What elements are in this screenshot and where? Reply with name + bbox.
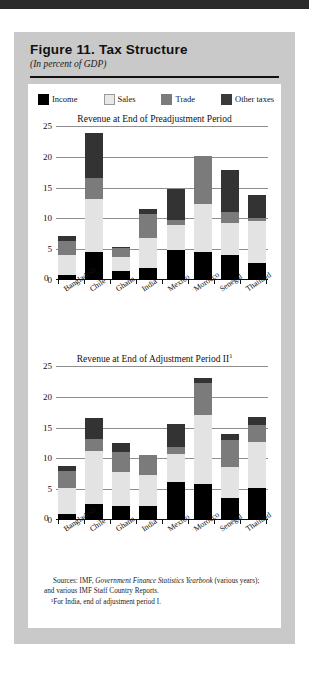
bar-chile[interactable] (85, 418, 103, 520)
bar-segment-sales (58, 488, 76, 514)
y-axis-label-5: 5 (48, 244, 53, 254)
bar-senegal[interactable] (221, 434, 239, 520)
bar-segment-sales (248, 221, 266, 263)
y-axis-label-10: 10 (43, 213, 52, 223)
y-axis-label-10: 10 (43, 453, 52, 463)
bar-segment-sales (194, 415, 212, 483)
chart-adjustment-period-2: Revenue at End of Adjustment Period II1 … (28, 352, 281, 567)
legend-label-trade: Trade (175, 94, 195, 104)
bar-segment-sales (167, 454, 185, 482)
bar-segment-other-taxes (167, 189, 185, 220)
bar-segment-other-taxes (221, 170, 239, 212)
bar-segment-trade (85, 439, 103, 451)
chart-legend: Income Sales Trade Other taxes (38, 91, 274, 107)
bar-segment-trade (194, 156, 212, 204)
bar-segment-trade (167, 447, 185, 454)
figure-page: Figure 11. Tax Structure (In percent of … (0, 0, 309, 679)
bar-group (56, 366, 268, 520)
bar-india[interactable] (139, 455, 157, 520)
bar-segment-trade (248, 425, 266, 442)
bar-segment-other-taxes (85, 418, 103, 440)
chart-card: Income Sales Trade Other taxes Re (28, 84, 281, 628)
bar-bangladesh[interactable] (58, 466, 76, 520)
plot-area-preadjustment: 0510152025 (56, 126, 268, 280)
bar-segment-other-taxes (85, 133, 103, 177)
y-axis-label-15: 15 (43, 423, 52, 433)
source-footnote: ¹For India, end of adjustment period I. (44, 597, 270, 607)
bar-segment-trade (58, 241, 76, 255)
bar-segment-trade (112, 248, 130, 257)
figure-title: Figure 11. Tax Structure (30, 42, 188, 57)
figure-panel: Figure 11. Tax Structure (In percent of … (14, 32, 295, 644)
bar-segment-trade (85, 178, 103, 199)
bar-segment-sales (58, 255, 76, 275)
bar-segment-trade (221, 440, 239, 467)
bar-segment-sales (221, 223, 239, 256)
source-note: Sources: IMF, Government Finance Statist… (44, 576, 270, 607)
bar-segment-sales (194, 204, 212, 251)
legend-label-other-taxes: Other taxes (235, 94, 274, 104)
legend-swatch-other-icon (221, 94, 232, 105)
bar-segment-sales (139, 475, 157, 506)
figure-subtitle: (In percent of GDP) (30, 59, 106, 69)
bar-segment-trade (58, 471, 76, 488)
chart-preadjustment: Revenue at End of Preadjustment Period 0… (28, 112, 281, 327)
bar-chile[interactable] (85, 133, 103, 280)
y-axis-label-5: 5 (48, 484, 53, 494)
legend-label-sales: Sales (118, 94, 136, 104)
bar-morocco[interactable] (194, 378, 212, 520)
legend-item-other: Other taxes (221, 94, 274, 105)
legend-swatch-trade-icon (161, 94, 172, 105)
y-axis-label-25: 25 (43, 361, 52, 371)
bar-india[interactable] (139, 209, 157, 280)
page-top-band (0, 0, 309, 9)
y-axis-label-0: 0 (44, 513, 49, 523)
legend-label-income: Income (52, 94, 78, 104)
bar-thailand[interactable] (248, 195, 266, 280)
bar-segment-sales (85, 451, 103, 504)
x-axis-labels: BangladeshChileGhanaIndiaMexicoMoroccoSe… (56, 284, 268, 320)
bar-bangladesh[interactable] (58, 236, 76, 280)
bar-segment-trade (221, 212, 239, 222)
legend-swatch-income-icon (38, 94, 49, 105)
legend-item-sales: Sales (104, 94, 136, 105)
bar-senegal[interactable] (221, 170, 239, 280)
y-axis-label-20: 20 (43, 152, 52, 162)
chart-title-adjustment: Revenue at End of Adjustment Period II1 (28, 352, 281, 364)
bar-ghana[interactable] (112, 247, 130, 280)
bar-segment-sales (139, 238, 157, 268)
legend-item-income: Income (38, 94, 78, 105)
bar-segment-sales (112, 257, 130, 271)
y-axis-label-20: 20 (43, 392, 52, 402)
source-prefix: Sources: IMF, (53, 577, 95, 585)
bar-segment-sales (221, 467, 239, 498)
legend-item-trade: Trade (161, 94, 195, 105)
bar-morocco[interactable] (194, 156, 212, 280)
bar-segment-trade (139, 455, 157, 475)
y-axis-label-0: 0 (44, 273, 49, 283)
bar-segment-trade (112, 452, 130, 472)
x-axis-labels: BangladeshChileGhanaIndiaMexicoMoroccoSe… (56, 524, 268, 560)
bar-segment-other-taxes (167, 424, 185, 447)
y-axis-label-15: 15 (43, 183, 52, 193)
bar-ghana[interactable] (112, 443, 130, 520)
source-publication: Government Finance Statistics Yearbook (95, 577, 212, 585)
plot-area-adjustment: 0510152025 (56, 366, 268, 520)
bar-mexico[interactable] (167, 189, 185, 280)
title-divider (30, 76, 279, 78)
bar-segment-trade (139, 214, 157, 238)
y-axis-label-25: 25 (43, 121, 52, 131)
bar-segment-sales (167, 225, 185, 250)
legend-swatch-sales-icon (104, 94, 115, 105)
bar-mexico[interactable] (167, 424, 185, 520)
bar-segment-other-taxes (248, 195, 266, 218)
bar-thailand[interactable] (248, 417, 266, 520)
chart-title-preadjustment: Revenue at End of Preadjustment Period (28, 112, 281, 124)
bar-segment-other-taxes (248, 417, 266, 426)
bar-segment-trade (194, 383, 212, 415)
bar-segment-sales (112, 472, 130, 506)
bar-segment-other-taxes (112, 443, 130, 452)
bar-group (56, 126, 268, 280)
bar-segment-sales (85, 199, 103, 253)
bar-segment-sales (248, 442, 266, 488)
